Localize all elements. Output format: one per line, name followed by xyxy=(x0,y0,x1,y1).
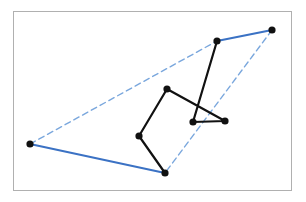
figure-root xyxy=(0,0,306,202)
data-point-p1 xyxy=(161,169,168,176)
data-point-p6 xyxy=(213,37,220,44)
data-point-p2 xyxy=(135,132,142,139)
data-point-p5 xyxy=(221,117,228,124)
data-point-p4 xyxy=(189,118,196,125)
geometry-canvas xyxy=(0,0,306,202)
data-point-p3 xyxy=(163,85,170,92)
data-point-p7 xyxy=(268,26,275,33)
hull-solid-segment xyxy=(30,144,165,173)
hull-dashed-segment xyxy=(30,41,217,144)
hull-solid-segment xyxy=(217,30,272,41)
hull-dashed-segment xyxy=(165,30,272,173)
data-point-p0 xyxy=(26,140,33,147)
